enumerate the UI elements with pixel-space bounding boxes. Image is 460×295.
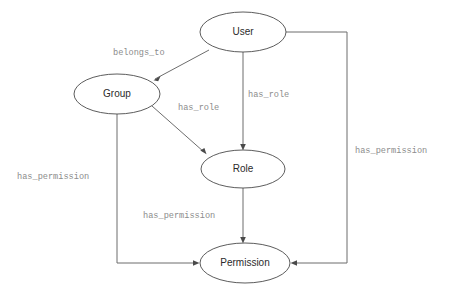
node-permission[interactable]: Permission [200,243,290,283]
edge-user-has_permission-permission [286,32,347,266]
node-label-permission: Permission [220,257,269,268]
edge-label-role-has-permission: has_permission [143,211,215,221]
relationship-graph: belongs_to has_role has_role has_permiss… [0,0,460,295]
node-label-role: Role [233,163,254,174]
edge-label-group-has-role: has_role [178,103,219,113]
arrowhead-group-permission [193,260,200,266]
edge-label-belongs-to: belongs_to [113,48,165,58]
node-group[interactable]: Group [74,74,160,114]
er-diagram-canvas: belongs_to has_role has_role has_permiss… [0,0,460,295]
edge-line-user-permission [286,32,347,263]
arrowhead-user-role [240,144,246,151]
edge-label-user-has-permission: has_permission [355,146,427,156]
edge-label-group-has-permission: has_permission [17,172,89,182]
node-role[interactable]: Role [201,150,285,188]
edge-role-has_permission-permission [240,188,246,244]
arrowhead-user-permission [291,260,298,266]
edge-label-user-has-role: has_role [248,90,289,100]
edge-line-group-permission [117,114,196,263]
node-user[interactable]: User [200,12,286,52]
node-label-user: User [232,26,254,37]
node-label-group: Group [103,88,131,99]
arrowhead-user-group [154,76,161,81]
edge-user-has_role-role [240,52,246,151]
arrowhead-role-permission [240,237,246,244]
